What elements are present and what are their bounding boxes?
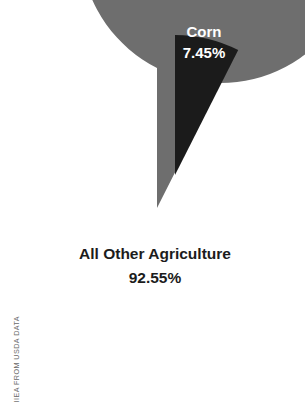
source-credit: IIEA FROM USDA DATA — [12, 299, 21, 403]
pie-slice-all-other-agriculture-value: 92.55% — [129, 269, 182, 286]
pie-slice-corn-value: 7.45% — [183, 44, 226, 61]
pie-slice-corn-label: Corn — [187, 23, 222, 40]
pie-slice-all-other-agriculture-label: All Other Agriculture — [79, 245, 231, 262]
